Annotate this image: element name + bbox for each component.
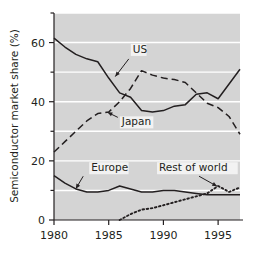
annotation-label-europe: Europe bbox=[91, 161, 128, 173]
annotation-label-japan: Japan bbox=[121, 115, 151, 127]
x-tick-label: 1985 bbox=[95, 229, 123, 242]
x-tick-label: 1980 bbox=[40, 229, 68, 242]
y-tick-label: 20 bbox=[31, 155, 45, 168]
annotation-label-rest-of-world: Rest of world bbox=[159, 161, 228, 173]
y-axis-title: Semiconductor market share (%) bbox=[8, 29, 20, 203]
chart-container: 0204060 1980198519901995 USJapanEuropeRe… bbox=[0, 0, 258, 253]
x-tick-label: 1995 bbox=[204, 229, 232, 242]
x-tick-label: 1990 bbox=[149, 229, 177, 242]
y-tick-label: 60 bbox=[31, 37, 45, 50]
annotation-label-us: US bbox=[133, 43, 148, 55]
x-axis-ticks bbox=[54, 220, 218, 225]
semiconductor-market-share-line-chart: 0204060 1980198519901995 USJapanEuropeRe… bbox=[0, 0, 258, 253]
y-tick-label: 40 bbox=[31, 96, 45, 109]
x-axis-tick-labels: 1980198519901995 bbox=[40, 229, 232, 242]
y-tick-label: 0 bbox=[38, 214, 45, 227]
y-axis-tick-labels: 0204060 bbox=[31, 37, 45, 227]
